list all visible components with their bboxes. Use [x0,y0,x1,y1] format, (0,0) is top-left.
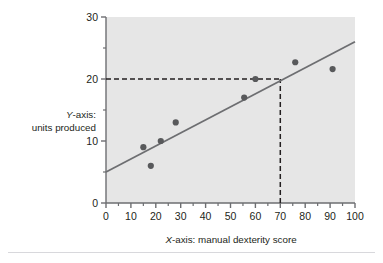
data-point [241,95,247,101]
y-tick-label: 20 [86,73,98,85]
y-axis-title-line1: Y-axis: [66,109,96,120]
data-point [173,119,179,125]
y-tick-label: 30 [86,11,98,23]
x-tick-label: 10 [125,210,137,222]
y-tick-label: 0 [92,197,98,209]
x-tick-label: 0 [103,210,109,222]
chart-svg: 0102030 0102030405060708090100 Y-axis: u… [0,0,383,263]
data-point [140,144,146,150]
data-point [329,66,335,72]
x-tick-label: 70 [274,210,286,222]
x-tick-label: 90 [324,210,336,222]
x-tick-label: 50 [225,210,237,222]
data-point [292,59,298,65]
x-axis-title: X-axis: manual dexterity score [164,234,297,245]
data-point [252,76,258,82]
x-tick-label: 60 [250,210,262,222]
data-point [158,138,164,144]
x-tick-label: 30 [175,210,187,222]
bottom-divider [8,252,375,253]
x-axis-tick-labels: 0102030405060708090100 [103,210,364,222]
scatter-plot-figure: 0102030 0102030405060708090100 Y-axis: u… [0,0,383,263]
y-tick-label: 10 [86,135,98,147]
data-point [148,163,154,169]
plot-area-background [106,17,355,203]
y-axis-title-line2: units produced [32,122,96,133]
x-tick-label: 100 [346,210,364,222]
x-tick-label: 80 [299,210,311,222]
x-tick-label: 40 [200,210,212,222]
x-tick-label: 20 [150,210,162,222]
